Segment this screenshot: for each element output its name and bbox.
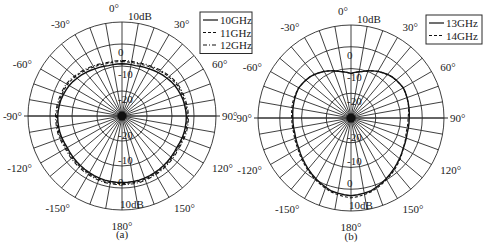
svg-text:60°: 60° xyxy=(212,58,227,70)
svg-text:60°: 60° xyxy=(440,61,455,73)
svg-text:0: 0 xyxy=(347,177,353,189)
svg-text:0: 0 xyxy=(118,46,124,58)
svg-text:90°: 90° xyxy=(450,112,465,124)
polar-chart-b: 10dB10dB00-10-10-20-200°30°60°90°120°150… xyxy=(233,5,482,243)
legend-label: 10GHz xyxy=(220,14,252,26)
legend-label: 12GHz xyxy=(220,39,252,51)
svg-text:30°: 30° xyxy=(403,21,418,33)
svg-text:0°: 0° xyxy=(338,5,348,17)
svg-text:-120°: -120° xyxy=(7,162,32,174)
svg-text:120°: 120° xyxy=(212,162,233,174)
svg-text:0°: 0° xyxy=(109,2,119,14)
legend-label: 11GHz xyxy=(220,27,251,39)
svg-text:-150°: -150° xyxy=(45,202,70,214)
svg-text:-60°: -60° xyxy=(243,61,262,73)
svg-text:0: 0 xyxy=(347,49,353,61)
legend: 10GHz11GHz12GHz xyxy=(200,12,252,54)
svg-text:-30°: -30° xyxy=(51,18,70,30)
svg-text:-120°: -120° xyxy=(237,164,262,176)
polar-pattern-figure: 10dB10dB00-10-10-20-200°30°60°90°120°150… xyxy=(0,0,493,249)
svg-text:120°: 120° xyxy=(440,164,461,176)
svg-text:-20: -20 xyxy=(347,131,362,143)
svg-text:-10: -10 xyxy=(118,154,133,166)
svg-text:-90°: -90° xyxy=(3,110,22,122)
svg-text:-10: -10 xyxy=(347,155,362,167)
panel-caption: (b) xyxy=(345,230,358,243)
svg-text:150°: 150° xyxy=(174,202,195,214)
svg-text:-150°: -150° xyxy=(275,203,300,215)
svg-text:10dB: 10dB xyxy=(357,13,381,25)
svg-text:10dB: 10dB xyxy=(349,199,373,211)
svg-text:10dB: 10dB xyxy=(128,10,152,22)
legend-label: 14GHz xyxy=(446,30,478,42)
svg-text:-30°: -30° xyxy=(280,21,299,33)
svg-text:30°: 30° xyxy=(174,18,189,30)
svg-text:-20: -20 xyxy=(118,129,133,141)
legend: 13GHz14GHz xyxy=(426,15,482,44)
svg-text:-20: -20 xyxy=(118,93,133,105)
panel-caption: (a) xyxy=(116,228,129,241)
svg-text:-60°: -60° xyxy=(13,58,32,70)
svg-text:-90°: -90° xyxy=(233,112,252,124)
svg-text:-20: -20 xyxy=(347,95,362,107)
svg-text:-10: -10 xyxy=(118,68,133,80)
svg-text:150°: 150° xyxy=(403,203,424,215)
svg-text:10dB: 10dB xyxy=(120,198,144,210)
polar-chart-a: 10dB10dB00-10-10-20-200°30°60°90°120°150… xyxy=(3,2,252,241)
legend-label: 13GHz xyxy=(446,17,478,29)
